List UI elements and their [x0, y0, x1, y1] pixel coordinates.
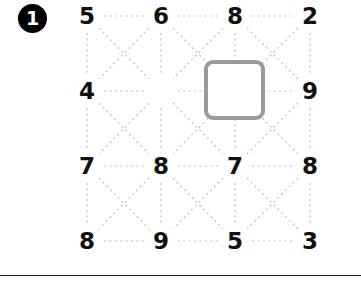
number-grid: 568247978788953: [72, 0, 332, 260]
question-number-badge: 1: [18, 4, 47, 33]
grid-cell-r3-c1: 7: [72, 152, 102, 180]
grid-cell-r3-c3: 7: [220, 152, 250, 180]
grid-cell-r4-c2: 9: [146, 227, 176, 255]
grid-cell-r1-c3: 8: [220, 2, 250, 30]
grid-cell-r2-c2: [146, 77, 176, 105]
grid-cell-r1-c4: 2: [295, 2, 325, 30]
grid-cell-r3-c4: 8: [295, 152, 325, 180]
grid-cell-r4-c3: 5: [220, 227, 250, 255]
missing-number-answer-box[interactable]: [204, 60, 265, 120]
grid-cell-r2-c1: 4: [72, 77, 102, 105]
grid-cell-r1-c2: 6: [146, 2, 176, 30]
grid-cell-r4-c1: 8: [72, 227, 102, 255]
section-divider-rule: [0, 275, 361, 276]
grid-cell-r4-c4: 3: [295, 227, 325, 255]
puzzle-panel: 1 568247978788953: [0, 0, 361, 292]
grid-cell-r3-c2: 8: [146, 152, 176, 180]
grid-cell-r1-c1: 5: [72, 2, 102, 30]
grid-connector-lines: [72, 0, 332, 260]
grid-cell-r2-c4: 9: [295, 77, 325, 105]
